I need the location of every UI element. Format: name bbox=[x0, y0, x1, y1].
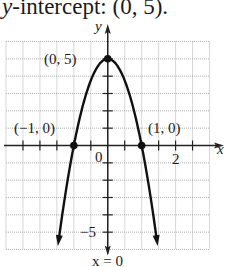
vertex-label: (0, 5) bbox=[44, 52, 77, 67]
origin-label: 0 bbox=[95, 150, 103, 165]
right-root-label: (1, 0) bbox=[148, 121, 181, 136]
symmetry-label: x = 0 bbox=[92, 254, 123, 267]
x-tick-label-2: 2 bbox=[172, 152, 180, 167]
x-axis-label: x bbox=[217, 142, 224, 157]
left-root-label: (−1, 0) bbox=[14, 121, 55, 136]
y-tick-label-neg5: −5 bbox=[80, 225, 96, 240]
y-axis-label: y bbox=[95, 19, 102, 34]
